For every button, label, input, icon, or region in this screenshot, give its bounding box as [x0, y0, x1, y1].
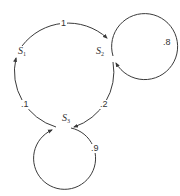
state-s1-label: S1	[18, 46, 26, 57]
markov-chain-diagram	[0, 0, 180, 196]
state-s2-label: S2	[96, 46, 104, 57]
edge-s3-to-s1	[14, 58, 56, 127]
state-s3-label: S3	[62, 113, 70, 124]
transition-label-s1-s2: 1	[60, 19, 67, 28]
transition-label-s2-s3: .2	[99, 100, 109, 109]
transition-label-s3-s1: .1	[20, 100, 30, 109]
transition-label-s3-s3: .9	[90, 144, 100, 153]
edge-s2-to-s3	[74, 62, 114, 127]
state-s2-subscript: 2	[101, 51, 104, 57]
state-s1-subscript: 1	[23, 51, 26, 57]
state-s3-subscript: 3	[67, 118, 70, 124]
edge-s3-self-loop	[34, 128, 96, 189]
transition-label-s2-s2: .8	[162, 38, 172, 47]
